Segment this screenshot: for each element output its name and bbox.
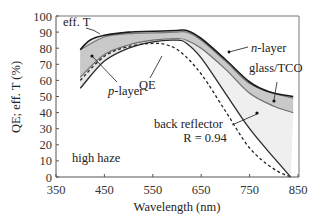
label-eff-t: eff. T	[63, 15, 91, 29]
n-layer-leader	[229, 47, 248, 52]
label-glass-tco: glass/TCO	[249, 61, 302, 75]
label-reflectance: R = 0.94	[183, 131, 227, 145]
y-tick-80: 80	[40, 42, 53, 56]
n-rest: -layer	[257, 41, 287, 55]
y-tick-40: 40	[40, 106, 53, 120]
y-tick-30: 30	[40, 122, 53, 136]
x-axis-title: Wavelength (nm)	[134, 200, 221, 214]
x-tick-450: 450	[95, 183, 114, 197]
x-tick-850: 850	[289, 183, 308, 197]
y-tick-90: 90	[40, 26, 53, 40]
back-reflector-dot	[255, 111, 258, 114]
label-qe: QE	[139, 78, 156, 92]
n-layer-dot	[228, 51, 231, 54]
y-tick-50: 50	[40, 90, 53, 104]
y-axis-title: QE; eff. T (%)	[9, 61, 23, 133]
qe-leader	[150, 56, 162, 78]
y-tick-60: 60	[40, 74, 53, 88]
y-tick-70: 70	[40, 58, 53, 72]
p-italic: p	[107, 84, 114, 98]
x-tick-350: 350	[47, 183, 66, 197]
glass-tco-dot	[272, 99, 275, 102]
x-tick-labels: 350 450 550 650 750 850	[47, 183, 308, 197]
x-tick-550: 550	[143, 183, 162, 197]
y-tick-labels: 0 10 20 30 40 50 60 70 80 90 100	[33, 10, 52, 185]
label-n-layer: n-layer	[251, 41, 287, 55]
y-tick-10: 10	[40, 154, 53, 168]
x-tick-650: 650	[192, 183, 211, 197]
label-high-haze: high haze	[72, 151, 121, 165]
qe-transmission-chart: 0 10 20 30 40 50 60 70 80 90 100 350 450…	[0, 0, 322, 222]
label-back-reflector: back reflector	[154, 117, 224, 131]
y-tick-20: 20	[40, 138, 53, 152]
x-tick-750: 750	[240, 183, 259, 197]
p-layer-dot	[90, 54, 93, 57]
y-tick-100: 100	[33, 10, 52, 24]
